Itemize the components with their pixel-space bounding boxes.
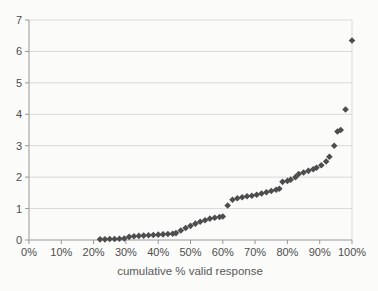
y-tick-label-1: 1 <box>16 203 22 215</box>
y-tick-label-3: 3 <box>16 140 22 152</box>
data-point-50 <box>326 153 333 160</box>
data-point-54 <box>342 106 349 113</box>
data-point-35 <box>263 189 270 196</box>
data-point-36 <box>268 188 275 195</box>
chart-canvas: 012345670%10%20%30%40%50%60%70%80%90%100… <box>0 0 378 291</box>
x-tick-label-40: 40% <box>147 246 169 258</box>
data-point-30 <box>239 194 246 201</box>
data-point-34 <box>258 190 265 197</box>
x-tick-label-80: 80% <box>276 246 298 258</box>
y-tick-label-4: 4 <box>16 108 22 120</box>
x-tick-label-10: 10% <box>50 246 72 258</box>
y-tick-label-0: 0 <box>16 234 22 246</box>
data-point-32 <box>249 192 256 199</box>
data-point-33 <box>253 191 260 198</box>
x-tick-label-70: 70% <box>244 246 266 258</box>
x-tick-label-0: 0% <box>21 246 37 258</box>
x-axis-title: cumulative % valid response <box>117 265 263 277</box>
x-tick-label-90: 90% <box>309 246 331 258</box>
chart-render-root: 012345670%10%20%30%40%50%60%70%80%90%100… <box>16 14 366 258</box>
y-tick-label-6: 6 <box>16 45 22 57</box>
x-tick-label-20: 20% <box>83 246 105 258</box>
y-tick-label-2: 2 <box>16 171 22 183</box>
data-point-51 <box>331 142 338 149</box>
y-tick-label-5: 5 <box>16 77 22 89</box>
x-tick-label-30: 30% <box>115 246 137 258</box>
y-tick-label-7: 7 <box>16 14 22 26</box>
x-tick-label-100: 100% <box>338 246 366 258</box>
x-tick-label-50: 50% <box>179 246 201 258</box>
scatter-chart: 012345670%10%20%30%40%50%60%70%80%90%100… <box>0 0 378 291</box>
data-point-49 <box>323 158 330 165</box>
data-point-27 <box>224 202 231 209</box>
data-point-39 <box>279 179 286 186</box>
data-point-55 <box>349 37 356 44</box>
x-tick-label-60: 60% <box>212 246 234 258</box>
